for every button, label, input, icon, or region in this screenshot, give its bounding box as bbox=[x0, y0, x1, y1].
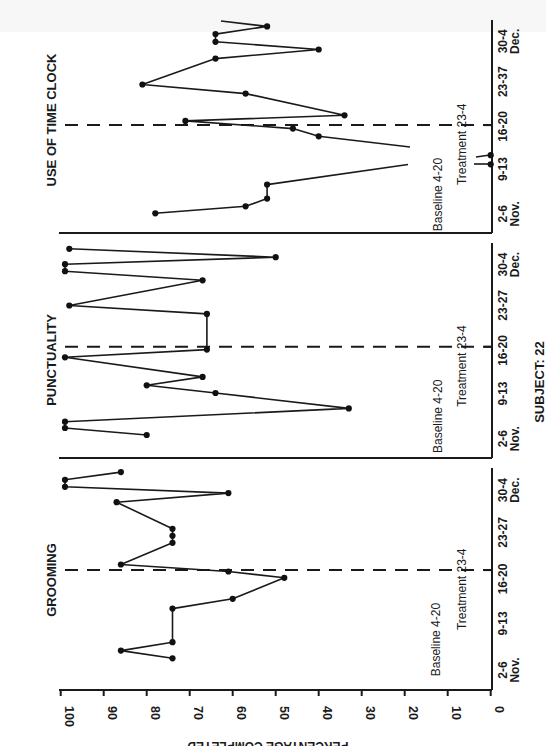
month-start-label: Nov. bbox=[508, 201, 522, 226]
time-tick-label: 16-20 bbox=[496, 563, 510, 594]
data-point bbox=[204, 347, 210, 353]
data-point bbox=[62, 354, 68, 360]
tick-label: 100 bbox=[62, 706, 76, 727]
data-point bbox=[169, 526, 175, 532]
tick-label: 60 bbox=[234, 706, 248, 720]
month-start-label: Nov. bbox=[508, 657, 522, 682]
data-point bbox=[212, 56, 218, 62]
data-line bbox=[65, 472, 284, 658]
tick-label: 20 bbox=[406, 706, 420, 720]
data-point bbox=[182, 118, 188, 124]
month-end-label: Dec. bbox=[508, 29, 522, 54]
data-line bbox=[65, 249, 349, 435]
data-point bbox=[62, 477, 68, 483]
month-end-label: Dec. bbox=[508, 478, 522, 503]
data-point bbox=[316, 133, 322, 139]
time-tick-label: 23-27 bbox=[496, 517, 510, 548]
data-point bbox=[169, 639, 175, 645]
percentage-axis: 1009080706050403020100 PERCENTAGE COMPLE… bbox=[59, 690, 506, 746]
data-point bbox=[243, 91, 249, 97]
data-point bbox=[316, 46, 322, 52]
data-point bbox=[62, 419, 68, 425]
data-line bbox=[142, 34, 410, 147]
data-point bbox=[62, 484, 68, 490]
tick-label: 0 bbox=[492, 706, 506, 713]
data-point bbox=[225, 490, 231, 496]
baseline-label: Baseline 4-20 bbox=[431, 158, 445, 232]
time-tick-label: 23-27 bbox=[496, 290, 510, 321]
time-tick-label: 16-20 bbox=[496, 111, 510, 142]
data-point bbox=[66, 246, 72, 252]
data-point bbox=[346, 405, 352, 411]
multi-panel-line-chart: 1009080706050403020100 PERCENTAGE COMPLE… bbox=[0, 0, 546, 746]
data-point bbox=[169, 606, 175, 612]
panel-title: GROOMING bbox=[44, 543, 59, 617]
percentage-axis-ticks: 1009080706050403020100 bbox=[61, 690, 506, 727]
data-point bbox=[204, 311, 210, 317]
baseline-label: Baseline 4-20 bbox=[429, 603, 443, 677]
panel-title: PUNCTUALITY bbox=[44, 314, 59, 406]
panel-punctuality: PUNCTUALITYBaseline 4-20Treatment 23-42-… bbox=[44, 243, 522, 458]
data-point bbox=[290, 126, 296, 132]
data-point bbox=[144, 432, 150, 438]
tick-label: 50 bbox=[277, 706, 291, 720]
data-point bbox=[488, 161, 494, 167]
data-line bbox=[216, 21, 268, 34]
subject-label: SUBJECT: 22 bbox=[532, 341, 546, 423]
treatment-label: Treatment 23-4 bbox=[455, 325, 469, 407]
tick-label: 80 bbox=[148, 706, 162, 720]
data-point bbox=[281, 575, 287, 581]
data-point bbox=[488, 152, 494, 158]
month-start-label: Nov. bbox=[508, 426, 522, 451]
data-point bbox=[169, 533, 175, 539]
time-tick-label: 9-13 bbox=[496, 611, 510, 635]
panel-grooming: GROOMINGBaseline 4-20Treatment 23-42-69-… bbox=[44, 468, 522, 690]
data-point bbox=[62, 261, 68, 267]
data-point bbox=[169, 655, 175, 661]
panels: GROOMINGBaseline 4-20Treatment 23-42-69-… bbox=[44, 20, 522, 690]
time-tick-label: 9-13 bbox=[496, 381, 510, 405]
data-point bbox=[118, 648, 124, 654]
data-point bbox=[212, 390, 218, 396]
baseline-label: Baseline 4-20 bbox=[431, 379, 445, 453]
panel-use-of-time-clock: USE OF TIME CLOCKBaseline 4-20Treatment … bbox=[44, 20, 522, 233]
data-line bbox=[155, 165, 408, 214]
data-point bbox=[200, 277, 206, 283]
tick-label: 40 bbox=[320, 706, 334, 720]
percentage-axis-label: PERCENTAGE COMPLETED bbox=[187, 739, 348, 746]
time-tick-label: 23-37 bbox=[496, 66, 510, 97]
tick-label: 30 bbox=[363, 706, 377, 720]
tick-label: 70 bbox=[191, 706, 205, 720]
time-tick-label: 16-20 bbox=[496, 335, 510, 366]
data-point bbox=[225, 568, 231, 574]
month-end-label: Dec. bbox=[508, 252, 522, 277]
data-point bbox=[230, 596, 236, 602]
data-point bbox=[273, 254, 279, 260]
data-point bbox=[212, 31, 218, 37]
data-point bbox=[62, 425, 68, 431]
data-point bbox=[169, 540, 175, 546]
data-point bbox=[66, 302, 72, 308]
data-point bbox=[152, 210, 158, 216]
treatment-label: Treatment 23-4 bbox=[455, 103, 469, 185]
data-point bbox=[118, 469, 124, 475]
data-point bbox=[118, 561, 124, 567]
time-tick-label: 9-13 bbox=[496, 157, 510, 181]
tick-label: 10 bbox=[449, 706, 463, 720]
panel-title: USE OF TIME CLOCK bbox=[44, 53, 59, 187]
data-point bbox=[341, 112, 347, 118]
data-point bbox=[264, 182, 270, 188]
treatment-label: Treatment 23-4 bbox=[455, 548, 469, 630]
data-point bbox=[144, 382, 150, 388]
data-point bbox=[243, 203, 249, 209]
data-point bbox=[264, 23, 270, 29]
data-point bbox=[62, 268, 68, 274]
tick-label: 90 bbox=[105, 706, 119, 720]
data-point bbox=[264, 196, 270, 202]
data-point bbox=[200, 374, 206, 380]
data-point bbox=[139, 81, 145, 87]
data-point bbox=[114, 499, 120, 505]
data-point bbox=[212, 39, 218, 45]
